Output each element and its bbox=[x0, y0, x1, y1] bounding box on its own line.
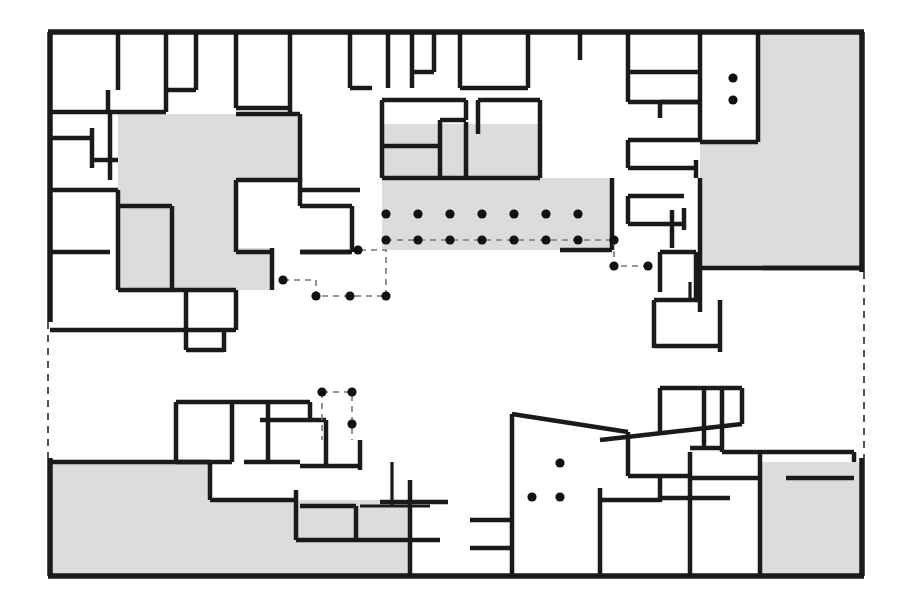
dot-grid-left-d bbox=[381, 291, 390, 300]
dot-upper-right-a bbox=[728, 73, 737, 82]
floor-plan-svg bbox=[0, 0, 906, 612]
dot-lower-room-c bbox=[555, 492, 564, 501]
column-row-lower-dot-5 bbox=[541, 235, 550, 244]
column-row-upper-dot-5 bbox=[541, 209, 550, 218]
dot-lower-box-b bbox=[347, 387, 356, 396]
dot-grid-left-a bbox=[278, 275, 287, 284]
zone-upper-center-inner bbox=[382, 124, 540, 178]
dot-lower-room-a bbox=[555, 458, 564, 467]
column-row-lower-dot-4 bbox=[509, 235, 518, 244]
dot-lower-box-c bbox=[347, 419, 356, 428]
dot-grid-left-c bbox=[345, 291, 354, 300]
column-row-lower-dot-7 bbox=[609, 235, 618, 244]
dot-lower-room-b bbox=[527, 492, 536, 501]
column-row-upper-dot-2 bbox=[445, 209, 454, 218]
dot-upper-right-b bbox=[728, 95, 737, 104]
floor-plan-canvas bbox=[0, 0, 906, 612]
column-row-upper-dot-1 bbox=[413, 209, 422, 218]
column-row-lower-dot-6 bbox=[573, 235, 582, 244]
column-row-lower-dot-2 bbox=[445, 235, 454, 244]
dot-grid-right-b bbox=[643, 261, 652, 270]
column-row-lower-dot-0 bbox=[381, 235, 390, 244]
dot-lower-box-a bbox=[317, 387, 326, 396]
column-row-lower-dot-1 bbox=[413, 235, 422, 244]
dot-grid-left-b bbox=[311, 291, 320, 300]
column-row-upper-dot-6 bbox=[573, 209, 582, 218]
dot-grid-left-e bbox=[353, 245, 362, 254]
column-row-upper-dot-3 bbox=[477, 209, 486, 218]
column-row-lower-dot-3 bbox=[477, 235, 486, 244]
dot-grid-right-a bbox=[609, 261, 618, 270]
column-row-upper-dot-4 bbox=[509, 209, 518, 218]
column-row-upper-dot-0 bbox=[381, 209, 390, 218]
